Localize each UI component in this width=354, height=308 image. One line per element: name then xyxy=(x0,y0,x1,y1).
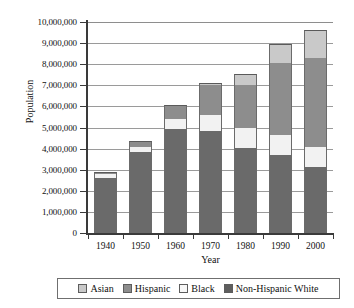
y-axis-tick-label: 8,000,000 xyxy=(7,60,77,69)
x-axis-tick-label: 1960 xyxy=(156,241,196,251)
x-tick-mark xyxy=(228,235,229,239)
bar-group[interactable] xyxy=(94,22,117,233)
bar-segment[interactable] xyxy=(129,147,152,152)
bar-group[interactable] xyxy=(269,22,292,233)
bar-segment[interactable] xyxy=(94,174,117,178)
plot-area xyxy=(88,22,333,233)
bar-segment[interactable] xyxy=(304,58,327,148)
bar-segment[interactable] xyxy=(269,44,292,63)
bar-segment[interactable] xyxy=(164,129,187,233)
population-stacked-bar-chart: Population Year 01,000,0002,000,0003,000… xyxy=(0,0,354,308)
x-axis-tick-label: 1940 xyxy=(86,241,126,251)
bar-segment[interactable] xyxy=(234,148,257,233)
y-axis-tick-label: 7,000,000 xyxy=(7,81,77,90)
bar-group[interactable] xyxy=(199,22,222,233)
bar-segment[interactable] xyxy=(269,63,292,135)
y-axis-tick-label: 4,000,000 xyxy=(7,145,77,154)
bar-segment[interactable] xyxy=(304,30,327,57)
bar-segment[interactable] xyxy=(129,141,152,142)
legend-swatch-icon xyxy=(78,284,87,293)
y-axis-tick-label: 6,000,000 xyxy=(7,102,77,111)
legend-item[interactable]: Hispanic xyxy=(123,284,171,294)
x-tick-mark xyxy=(193,235,194,239)
bar-segment[interactable] xyxy=(94,172,117,173)
legend-swatch-icon xyxy=(224,284,233,293)
legend-item[interactable]: Asian xyxy=(78,284,113,294)
bar-segment[interactable] xyxy=(199,85,222,115)
y-tick-mark xyxy=(80,170,86,171)
bar-segment[interactable] xyxy=(164,106,187,119)
y-axis-tick-label: 5,000,000 xyxy=(7,124,77,133)
legend-item[interactable]: Non-Hispanic White xyxy=(224,284,319,294)
bar-segment[interactable] xyxy=(234,85,257,128)
bar-segment[interactable] xyxy=(129,142,152,147)
bar-segment[interactable] xyxy=(164,119,187,129)
y-tick-mark xyxy=(80,43,86,44)
y-axis-tick-label: 0 xyxy=(7,229,77,238)
bar-group[interactable] xyxy=(304,22,327,233)
bar-group[interactable] xyxy=(234,22,257,233)
legend-item-label: Hispanic xyxy=(135,284,171,294)
y-tick-mark xyxy=(80,22,86,23)
x-axis-tick-label: 1990 xyxy=(261,241,301,251)
bar-segment[interactable] xyxy=(94,178,117,233)
bar-group[interactable] xyxy=(164,22,187,233)
bar-segment[interactable] xyxy=(304,167,327,233)
chart-legend: AsianHispanicBlackNon-Hispanic White xyxy=(57,278,340,299)
y-tick-mark xyxy=(80,85,86,86)
x-axis-tick-label: 1970 xyxy=(191,241,231,251)
y-tick-mark xyxy=(80,233,86,234)
x-tick-mark xyxy=(88,235,89,239)
x-tick-mark xyxy=(298,235,299,239)
y-tick-mark xyxy=(80,212,86,213)
bar-segment[interactable] xyxy=(234,128,257,148)
x-tick-mark xyxy=(263,235,264,239)
legend-item-label: Black xyxy=(191,284,214,294)
bar-segment[interactable] xyxy=(269,155,292,233)
bar-segment[interactable] xyxy=(199,83,222,84)
bar-group[interactable] xyxy=(129,22,152,233)
legend-item[interactable]: Black xyxy=(179,284,214,294)
y-axis-tick-label: 10,000,000 xyxy=(7,18,77,27)
bar-segment[interactable] xyxy=(304,147,327,167)
legend-swatch-icon xyxy=(179,284,188,293)
x-axis-tick-label: 1980 xyxy=(226,241,266,251)
x-tick-mark xyxy=(123,235,124,239)
bar-segment[interactable] xyxy=(164,105,187,106)
bar-segment[interactable] xyxy=(199,115,222,131)
bar-segment[interactable] xyxy=(269,135,292,155)
y-tick-mark xyxy=(80,149,86,150)
y-axis-tick-label: 2,000,000 xyxy=(7,187,77,196)
y-axis-tick-label: 9,000,000 xyxy=(7,39,77,48)
x-axis-tick-label: 1950 xyxy=(121,241,161,251)
y-tick-mark xyxy=(80,64,86,65)
legend-swatch-icon xyxy=(123,284,132,293)
legend-item-label: Non-Hispanic White xyxy=(236,284,319,294)
bar-segment[interactable] xyxy=(234,74,257,85)
bar-segment[interactable] xyxy=(199,131,222,233)
y-axis-tick-label: 1,000,000 xyxy=(7,208,77,217)
legend-item-label: Asian xyxy=(90,284,113,294)
x-tick-mark xyxy=(333,235,334,239)
y-tick-mark xyxy=(80,106,86,107)
y-tick-mark xyxy=(80,191,86,192)
x-axis-title: Year xyxy=(88,254,333,265)
x-tick-mark xyxy=(158,235,159,239)
y-axis-tick-label: 3,000,000 xyxy=(7,166,77,175)
y-tick-mark xyxy=(80,128,86,129)
x-axis-tick-label: 2000 xyxy=(296,241,336,251)
bar-segment[interactable] xyxy=(129,152,152,233)
